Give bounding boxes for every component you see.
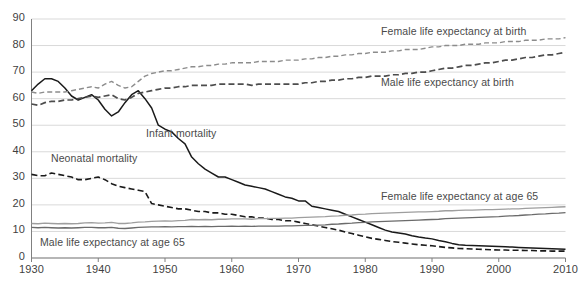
y-tick-90: 90 — [0, 11, 25, 23]
series-lines — [32, 38, 566, 252]
series-line-4 — [32, 207, 566, 224]
series-label-3: Male life expectancy at birth — [381, 76, 514, 88]
series-line-5 — [32, 213, 566, 229]
y-tick-70: 70 — [0, 64, 25, 76]
x-tick-1940: 1940 — [73, 263, 123, 275]
x-tick-1980: 1980 — [340, 263, 390, 275]
x-tick-1930: 1930 — [7, 263, 57, 275]
y-tick-0: 0 — [0, 250, 25, 262]
y-tick-30: 30 — [0, 170, 25, 182]
series-label-4: Female life expectancy at age 65 — [381, 190, 538, 202]
series-label-1: Neonatal mortality — [51, 152, 137, 164]
y-tick-40: 40 — [0, 144, 25, 156]
x-axis-ticks — [32, 258, 566, 262]
y-tick-20: 20 — [0, 197, 25, 209]
x-tick-1970: 1970 — [274, 263, 324, 275]
x-tick-1960: 1960 — [207, 263, 257, 275]
life-expectancy-mortality-chart: 0102030405060708090 19301940195019601970… — [0, 0, 582, 285]
series-label-2: Female life expectancy at birth — [381, 25, 527, 37]
y-tick-10: 10 — [0, 223, 25, 235]
series-label-0: Infant mortality — [146, 127, 216, 139]
y-tick-80: 80 — [0, 38, 25, 50]
series-label-5: Male life expectancy at age 65 — [40, 236, 185, 248]
x-tick-1950: 1950 — [140, 263, 190, 275]
y-tick-50: 50 — [0, 117, 25, 129]
x-tick-2000: 2000 — [474, 263, 524, 275]
x-tick-2010: 2010 — [541, 263, 582, 275]
x-tick-1990: 1990 — [407, 263, 457, 275]
y-tick-60: 60 — [0, 91, 25, 103]
